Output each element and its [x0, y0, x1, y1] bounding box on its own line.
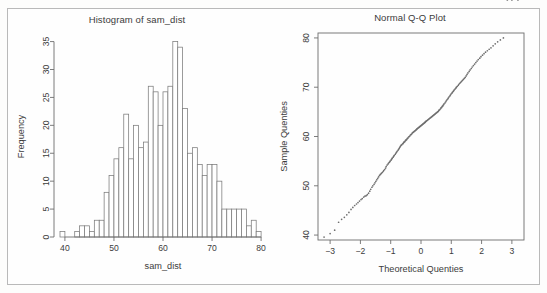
qq-point — [479, 57, 481, 59]
y-axis-tick-label: 10 — [41, 176, 51, 186]
y-axis-label: Frequency — [16, 114, 26, 158]
histogram-bar — [99, 220, 104, 237]
qq-point — [369, 190, 371, 192]
qq-x-axis: −3−2−10123 — [325, 240, 514, 256]
qq-x-axis-tick-label: 1 — [449, 246, 454, 256]
qq-plot-box — [318, 33, 524, 240]
histogram-bar — [124, 114, 129, 237]
histogram-bar — [192, 148, 197, 237]
histogram-bar — [163, 92, 168, 237]
histogram-bar — [168, 86, 173, 237]
qq-point — [476, 60, 478, 62]
x-axis-tick-label: 40 — [60, 243, 70, 253]
qq-point — [497, 41, 499, 43]
qq-point — [485, 51, 487, 53]
qq-point — [377, 178, 379, 180]
qq-y-axis-tick-label: 60 — [301, 132, 311, 142]
qq-point — [470, 68, 472, 70]
qq-plot-title: Normal Q-Q Plot — [273, 12, 547, 23]
qq-point — [361, 198, 363, 200]
histogram-bar — [109, 176, 114, 237]
x-axis-tick-label: 70 — [207, 243, 217, 253]
histogram-bar — [119, 148, 124, 237]
histogram-bars — [60, 42, 261, 237]
histogram-bar — [212, 164, 217, 237]
qq-point — [356, 203, 358, 205]
histogram-bar — [217, 181, 222, 237]
histogram-bar — [256, 231, 261, 237]
y-axis-tick-label: 30 — [41, 65, 51, 75]
qq-point — [466, 74, 468, 76]
qq-point — [517, 0, 519, 1]
qq-point — [370, 188, 372, 190]
qq-point — [346, 214, 348, 216]
y-axis-tick-label: 0 — [41, 234, 51, 239]
qq-point — [506, 0, 508, 1]
qq-point — [350, 209, 352, 211]
qq-y-axis-tick-label: 50 — [301, 181, 311, 191]
qq-point — [338, 221, 340, 223]
qq-point — [465, 75, 467, 77]
histogram-bar — [153, 92, 158, 237]
qq-point — [494, 43, 496, 45]
histogram-bar — [158, 125, 163, 237]
qq-points — [323, 0, 519, 238]
qq-x-axis-label: Theoretical Quenties — [379, 264, 464, 274]
qq-y-axis-tick-label: 40 — [301, 230, 311, 240]
qq-point — [490, 47, 492, 49]
qq-point — [375, 181, 377, 183]
histogram-panel: Histogram of sam_dist 405060708005101520… — [0, 0, 274, 293]
histogram-y-axis: 05101520253035 — [41, 37, 54, 240]
qq-point — [329, 233, 331, 235]
qq-x-axis-tick-label: 3 — [509, 246, 514, 256]
qq-y-axis-label: Sample Quenties — [279, 101, 289, 172]
qq-point — [471, 66, 473, 68]
histogram-bar — [75, 231, 80, 237]
qq-point — [473, 65, 475, 67]
qq-x-axis-tick-label: 2 — [479, 246, 484, 256]
histogram-svg: 405060708005101520253035sam_distFrequenc… — [0, 0, 274, 293]
qq-point — [385, 167, 387, 169]
qq-x-axis-tick-label: −2 — [356, 246, 366, 256]
qq-x-axis-tick-label: −1 — [386, 246, 396, 256]
qq-point — [464, 77, 466, 79]
y-axis-tick-label: 35 — [41, 37, 51, 47]
qq-point — [371, 186, 373, 188]
histogram-bar — [183, 109, 188, 237]
qq-point — [488, 48, 490, 50]
histogram-bar — [89, 231, 94, 237]
qq-point — [344, 216, 346, 218]
qq-point — [378, 176, 380, 178]
histogram-bar — [114, 159, 119, 237]
qq-point — [372, 185, 374, 187]
qq-point — [357, 202, 359, 204]
y-axis-tick-label: 5 — [41, 206, 51, 211]
y-axis-tick-label: 20 — [41, 120, 51, 130]
qq-point — [468, 71, 470, 73]
qq-point — [374, 182, 376, 184]
x-axis-tick-label: 60 — [158, 243, 168, 253]
y-axis-tick-label: 25 — [41, 92, 51, 102]
qq-point — [467, 72, 469, 74]
qq-point — [475, 62, 477, 64]
qq-point — [352, 207, 354, 209]
histogram-bar — [197, 164, 202, 237]
histogram-bar — [173, 42, 178, 237]
histogram-bar — [80, 226, 85, 237]
histogram-bar — [246, 226, 251, 237]
qq-point — [354, 205, 356, 207]
histogram-bar — [85, 226, 90, 237]
qq-point — [486, 50, 488, 52]
qq-point — [359, 200, 361, 202]
qq-y-axis: 4050607080 — [301, 33, 318, 240]
qq-point — [384, 169, 386, 171]
histogram-bar — [232, 209, 237, 237]
qq-point — [334, 229, 336, 231]
qq-point — [373, 183, 375, 185]
histogram-title: Histogram of sam_dist — [0, 14, 274, 25]
histogram-bar — [178, 47, 183, 237]
histogram-bar — [202, 176, 207, 237]
histogram-bar — [251, 220, 256, 237]
qq-point — [511, 0, 513, 1]
scanned-page: Histogram of sam_dist 405060708005101520… — [0, 0, 547, 293]
